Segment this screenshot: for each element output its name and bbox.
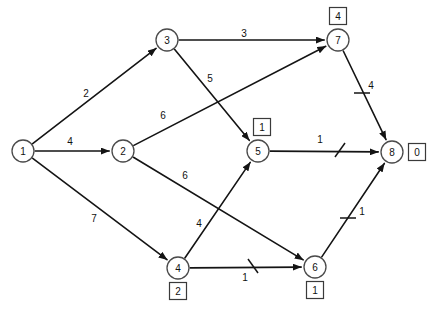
edge-6-to-8 — [322, 163, 385, 256]
edge-4-to-5 — [185, 162, 250, 258]
edge-weight-label-6-8: 1 — [359, 206, 365, 217]
node-5[interactable]: 5 — [247, 140, 269, 162]
node-1[interactable]: 1 — [12, 140, 34, 162]
node-7[interactable]: 7 — [327, 29, 349, 51]
node-value-box-4: 2 — [170, 283, 187, 300]
network-diagram: 1234251617480 247356641141 — [0, 0, 434, 309]
node-value-box-label-7: 4 — [335, 11, 341, 22]
edge-weight-label-1-2: 4 — [67, 136, 73, 147]
tick-mark-edge-5-8 — [335, 143, 345, 157]
graph-canvas: 1234251617480 247356641141 — [0, 0, 434, 309]
node-2[interactable]: 2 — [112, 140, 134, 162]
edge-weight-label-5-8: 1 — [317, 134, 323, 145]
edge-3-to-5 — [175, 49, 250, 140]
node-value-box-label-6: 1 — [312, 285, 318, 296]
edge-weight-label-2-7: 6 — [160, 110, 166, 121]
node-label-2: 2 — [120, 146, 126, 157]
node-label-4: 4 — [175, 263, 181, 274]
edge-weight-label-1-3: 2 — [83, 88, 89, 99]
edge-4-to-6 — [190, 267, 301, 268]
node-label-3: 3 — [164, 35, 170, 46]
node-value-box-label-5: 1 — [259, 122, 265, 133]
node-value-box-8: 0 — [409, 144, 426, 161]
node-label-5: 5 — [255, 146, 261, 157]
tick-mark-edge-4-6 — [248, 259, 258, 273]
edge-weight-label-1-4: 7 — [91, 213, 97, 224]
edge-weight-label-4-6: 1 — [242, 272, 248, 283]
node-value-box-label-4: 2 — [175, 286, 181, 297]
node-value-box-7: 4 — [330, 8, 347, 25]
node-value-box-5: 1 — [254, 119, 271, 136]
edge-weight-label-2-6: 6 — [182, 170, 188, 181]
node-4[interactable]: 4 — [167, 257, 189, 279]
node-value-box-6: 1 — [307, 282, 324, 299]
edge-1-to-4 — [33, 158, 167, 259]
node-3[interactable]: 3 — [156, 29, 178, 51]
edge-2-to-7 — [134, 46, 326, 145]
node-8[interactable]: 8 — [381, 141, 403, 163]
edge-5-to-8 — [270, 151, 378, 152]
node-label-6: 6 — [312, 262, 318, 273]
node-6[interactable]: 6 — [304, 256, 326, 278]
node-label-7: 7 — [335, 35, 341, 46]
edge-weight-label-3-5: 5 — [207, 73, 213, 84]
edge-weight-label-4-5: 4 — [196, 218, 202, 229]
edge-weight-label-7-8: 4 — [368, 80, 374, 91]
edge-7-to-8 — [343, 51, 386, 140]
edge-weight-label-3-7: 3 — [241, 28, 247, 39]
node-label-8: 8 — [389, 147, 395, 158]
node-label-1: 1 — [20, 146, 26, 157]
node-value-box-label-8: 0 — [414, 147, 420, 158]
nodes-layer: 1234251617480 — [12, 8, 426, 300]
edge-1-to-3 — [33, 48, 156, 143]
